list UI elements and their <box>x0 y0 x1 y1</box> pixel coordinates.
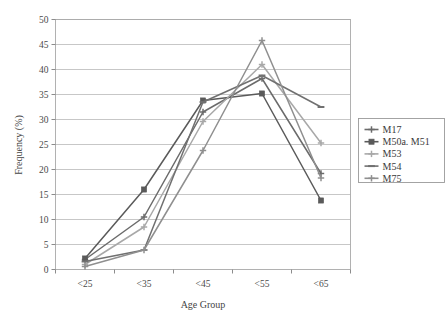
legend-label: M75 <box>383 173 402 184</box>
data-point-marker <box>369 139 374 144</box>
y-tick-label: 25 <box>39 140 49 150</box>
y-tick-label: 20 <box>39 165 49 175</box>
data-point-marker <box>259 91 264 96</box>
data-point-marker <box>82 256 87 261</box>
y-tick-label: 30 <box>39 115 49 125</box>
y-tick-label: 10 <box>39 215 49 225</box>
y-tick-label: 35 <box>39 90 49 100</box>
x-tick-label: <55 <box>255 279 270 289</box>
chart-canvas: 05101520253035404550 <25<35<45<55<65 Fre… <box>0 0 447 321</box>
x-axis-title: Age Group <box>181 299 226 310</box>
chart-legend: M17M50a. M51M53M54M75 <box>359 119 445 184</box>
y-tick-label: 5 <box>44 240 49 250</box>
legend-label: M53 <box>383 148 402 159</box>
data-point-marker <box>318 198 323 203</box>
legend-label: M50a. M51 <box>383 136 430 147</box>
y-tick-label: 15 <box>39 190 49 200</box>
y-tick-label: 45 <box>39 40 49 50</box>
x-tick-label: <65 <box>314 279 329 289</box>
y-tick-label: 0 <box>44 265 49 275</box>
y-axis-title: Frequency (%) <box>13 115 25 175</box>
legend-label: M17 <box>383 124 402 135</box>
legend-label: M54 <box>383 161 402 172</box>
y-tick-label: 50 <box>39 15 49 25</box>
x-tick-label: <35 <box>137 279 152 289</box>
data-point-marker <box>141 187 146 192</box>
x-tick-label: <25 <box>78 279 93 289</box>
line-chart-figure: 05101520253035404550 <25<35<45<55<65 Fre… <box>0 0 447 321</box>
y-tick-label: 40 <box>39 65 49 75</box>
x-tick-label: <45 <box>196 279 211 289</box>
